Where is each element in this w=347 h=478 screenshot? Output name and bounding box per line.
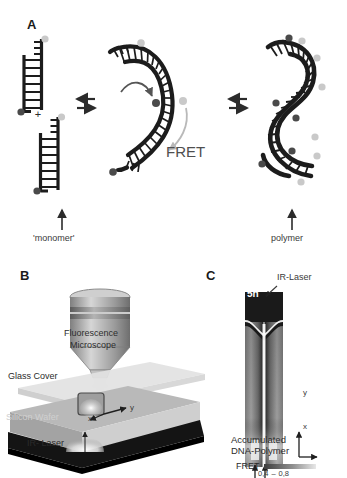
- fret-label: FRET: [166, 143, 205, 160]
- plus-sign: +: [35, 108, 41, 120]
- ir-laser-label-c: IR-Laser: [277, 272, 312, 282]
- fluorescence-label-line1: Fluorescence: [64, 328, 118, 338]
- fret-arrow-donor: [121, 83, 152, 96]
- fret-scale-ticks: 0,4 – 0,8: [258, 469, 289, 478]
- equilibrium-arrow-1: [77, 99, 95, 108]
- donor-dye-dimer: [152, 99, 160, 107]
- panel-a-graphic: +: [0, 0, 347, 250]
- axis-x-label-c: x: [303, 422, 307, 431]
- silicon-wafer-label: Silicon Wafer: [6, 412, 59, 422]
- dimer-structure: [110, 45, 173, 172]
- axis-x-label-b: x: [88, 414, 92, 423]
- polymer-structure: [263, 42, 314, 176]
- axis-y-label-c: y: [303, 388, 307, 397]
- monomer-label: 'monomer': [33, 233, 74, 243]
- fret-scale-min: 0,4: [258, 469, 268, 478]
- accumulated-label-line1: Accumulated: [231, 434, 286, 445]
- ir-laser-label-b: IR- Laser: [27, 438, 64, 448]
- fret-colorbar: [264, 464, 316, 469]
- fluorescence-label-line2: Microscope: [70, 340, 116, 350]
- donor-dye-dot: [17, 108, 24, 115]
- figure-root: A: [0, 0, 347, 478]
- acceptor-dye-dimer: [179, 97, 187, 105]
- acceptor-dye-dot: [41, 35, 48, 42]
- fret-legend-label: FRET: [236, 461, 260, 471]
- axis-y-label-b: y: [130, 403, 134, 412]
- fret-scale-dash: –: [271, 469, 275, 478]
- glass-cover-label: Glass Cover: [8, 371, 58, 381]
- accumulated-label-line2: DNA-Polymer: [231, 445, 289, 456]
- time-label: 5h: [247, 288, 259, 299]
- equilibrium-arrow-2: [229, 99, 247, 108]
- fret-scale-max: 0,8: [279, 469, 289, 478]
- polymer-label: polymer: [271, 233, 303, 243]
